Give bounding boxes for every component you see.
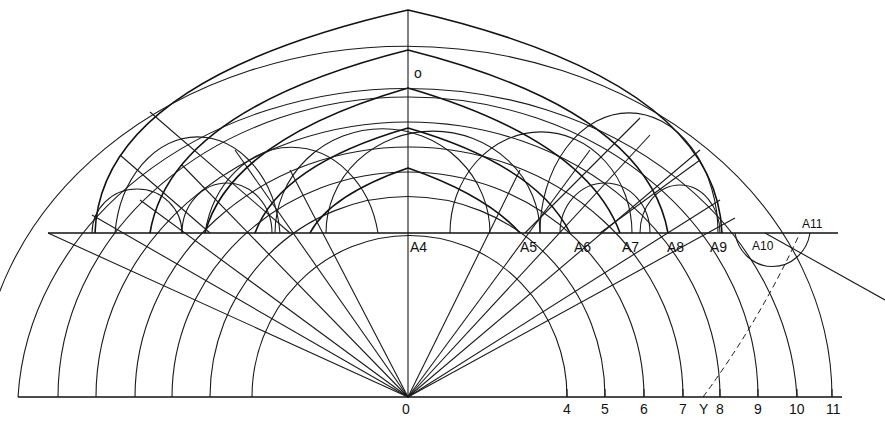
label-A8: A8	[667, 240, 684, 254]
label-A6: A6	[574, 240, 591, 254]
label-Y: Y	[699, 402, 708, 416]
label-A9: A9	[710, 240, 727, 254]
label-11: 11	[826, 402, 841, 416]
label-A11: A11	[802, 218, 822, 230]
label-A10: A10	[752, 240, 773, 252]
label-4: 4	[563, 402, 571, 416]
label-A4: A4	[410, 240, 427, 254]
label-0: 0	[402, 402, 410, 416]
label-A5: A5	[520, 240, 537, 254]
label-6: 6	[640, 402, 648, 416]
exit-line	[765, 233, 885, 300]
label-A7: A7	[622, 240, 639, 254]
label-5: 5	[601, 402, 609, 416]
label-9: 9	[754, 402, 762, 416]
label-10: 10	[789, 402, 805, 416]
construction-diagram	[0, 0, 885, 421]
left-small-semicircles	[92, 129, 490, 233]
baseline-ticks	[567, 389, 832, 397]
top-center-label: o	[414, 66, 422, 80]
label-7: 7	[679, 402, 687, 416]
concentric-arcs	[0, 46, 832, 397]
label-8: 8	[716, 402, 724, 416]
